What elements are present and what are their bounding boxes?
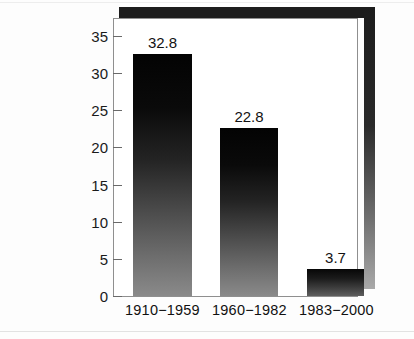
bar-0[interactable] [133,54,192,296]
bar-value-label-0: 32.8 [133,35,192,50]
scan-artifact-top [0,2,414,3]
x-axis-label-1: 1960−1982 [205,303,294,318]
y-tick-label-0: 0 [72,289,108,304]
frame-shadow-top [119,7,375,18]
y-tick-label-15: 15 [72,177,108,192]
x-axis-label-2: 1983−2000 [292,303,381,318]
y-tick-label-25: 25 [72,103,108,118]
chart-figure: 0 5 10 15 20 25 30 35 32.8 22.8 3.7 1910… [0,0,414,339]
y-tick-label-5: 5 [72,251,108,266]
bar-2[interactable] [307,269,364,296]
y-tick-0 [113,296,122,297]
y-tick-label-20: 20 [72,140,108,155]
scan-artifact-bottom [0,331,414,332]
frame-shadow-right [364,7,375,289]
y-tick-label-35: 35 [72,29,108,44]
bar-1[interactable] [220,128,278,296]
bar-value-label-2: 3.7 [307,250,364,265]
x-axis-label-0: 1910−1959 [118,303,207,318]
y-tick-label-10: 10 [72,214,108,229]
y-tick-label-30: 30 [72,66,108,81]
bar-value-label-1: 22.8 [220,109,278,124]
